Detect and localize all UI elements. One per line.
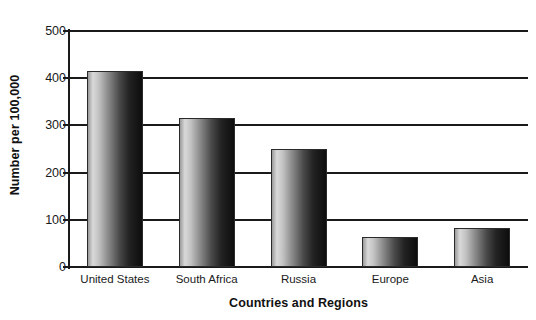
x-axis-tick-label: United States — [80, 274, 149, 286]
x-axis-tick-label: Asia — [471, 274, 493, 286]
y-axis-tick-mark — [63, 124, 70, 126]
bar — [454, 228, 510, 267]
bar-chart-figure: Number per 100,000 0100200300400500 Unit… — [0, 0, 536, 320]
y-axis-tick-mark — [63, 30, 70, 32]
x-axis-title: Countries and Regions — [69, 296, 528, 310]
x-axis-tick-label: Russia — [281, 274, 316, 286]
y-axis-tick-label: 0 — [30, 261, 66, 274]
y-axis-tick-label: 100 — [30, 214, 66, 227]
y-axis-tick-mark — [63, 219, 70, 221]
bar — [271, 149, 327, 267]
y-axis-tick-label: 400 — [30, 72, 66, 85]
bar — [179, 118, 235, 267]
bar — [362, 237, 418, 267]
y-axis-tick-mark — [63, 266, 70, 268]
y-axis-tick-mark — [63, 77, 70, 79]
gridline — [69, 30, 528, 32]
y-axis-title-text: Number per 100,000 — [8, 75, 22, 196]
plot-area — [69, 31, 528, 267]
y-axis-tick-label: 300 — [30, 119, 66, 132]
y-axis-tick-labels: 0100200300400500 — [26, 0, 66, 320]
y-axis-tick-mark — [63, 172, 70, 174]
x-axis-tick-label: South Africa — [176, 274, 238, 286]
y-axis-tick-label: 500 — [30, 25, 66, 38]
x-axis-tick-label: Europe — [372, 274, 409, 286]
y-axis-tick-label: 200 — [30, 166, 66, 179]
bar — [87, 71, 143, 267]
